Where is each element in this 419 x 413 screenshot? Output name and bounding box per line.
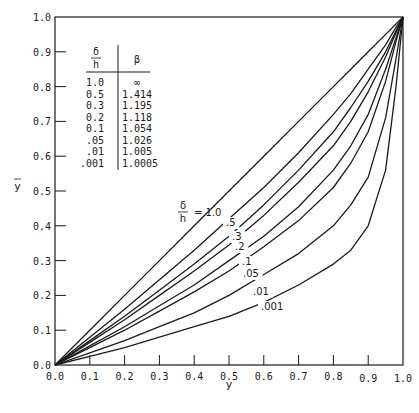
y-axis-ticks: 0.00.10.20.30.40.50.60.70.80.91.0: [33, 12, 66, 371]
x-tick-label: 0.8: [324, 371, 342, 382]
x-tick-label: 1.0: [394, 373, 412, 384]
curve-family: [55, 17, 403, 365]
table-cell-beta: 1.005: [122, 146, 152, 157]
y-tick-label: 1.0: [33, 12, 51, 23]
x-tick-label: 0.0: [46, 371, 64, 382]
table-header-h: h: [93, 59, 99, 70]
table-cell-delta: .05: [86, 135, 104, 146]
table-cell-delta: 0.2: [86, 112, 104, 123]
curve-label: .2: [235, 241, 245, 252]
x-tick-label: 0.3: [150, 371, 168, 382]
x-tick-label: 0.7: [290, 371, 308, 382]
svg-text:y: y: [14, 180, 21, 193]
table-header-beta: β: [134, 54, 140, 65]
curve-label: .001: [261, 301, 283, 312]
y-tick-label: 0.6: [33, 151, 51, 162]
table-cell-beta: 1.118: [122, 112, 152, 123]
x-tick-label: 0.9: [359, 373, 377, 384]
x-tick-label: 0.4: [185, 371, 203, 382]
y-tick-label: 0.5: [33, 186, 51, 197]
curve-label: .5: [226, 217, 236, 228]
table-cell-beta: 1.026: [122, 135, 152, 146]
table-cell-beta: ∞: [134, 77, 140, 88]
chart-canvas: 0.00.10.20.30.40.50.60.70.80.91.0 0.00.1…: [0, 0, 419, 413]
table-header-delta: δ: [93, 46, 99, 57]
y-tick-label: 0.4: [33, 221, 51, 232]
curve-label: .05: [243, 268, 259, 279]
curve-1p0: [55, 17, 403, 365]
table-cell-delta: 0.5: [86, 89, 104, 100]
x-tick-label: 0.2: [116, 371, 134, 382]
table-cell-beta: 1.414: [122, 89, 152, 100]
y-tick-label: 0.8: [33, 82, 51, 93]
curve-label: .01: [253, 286, 269, 297]
table-cell-beta: 1.195: [122, 100, 152, 111]
x-tick-label: 0.6: [255, 371, 273, 382]
table-cell-beta: 1.054: [122, 123, 152, 134]
table-cell-delta: 0.1: [86, 123, 104, 134]
svg-text:= 1.0: = 1.0: [194, 207, 221, 218]
x-tick-label: 0.1: [81, 371, 99, 382]
y-tick-label: 0.2: [33, 290, 51, 301]
table-cell-delta: 0.3: [86, 100, 104, 111]
table-cell-delta: .001: [80, 158, 104, 169]
curve-labels: .5.3.2.1.05.01.001: [223, 217, 287, 313]
svg-text:h: h: [180, 213, 186, 224]
x-axis-label: y: [226, 378, 233, 391]
y-axis-label: y: [14, 179, 21, 193]
table-cell-beta: 1.0005: [122, 158, 158, 169]
y-tick-label: 0.1: [33, 325, 51, 336]
y-tick-label: 0.9: [33, 47, 51, 58]
y-tick-label: 0.7: [33, 116, 51, 127]
table-cell-delta: 1.0: [86, 77, 104, 88]
svg-text:δ: δ: [180, 200, 186, 211]
y-tick-label: 0.3: [33, 256, 51, 267]
table-cell-delta: .01: [86, 146, 104, 157]
y-tick-label: 0.0: [33, 360, 51, 371]
curve-label: .1: [242, 256, 252, 267]
beta-table: δ h β 1.0∞0.51.4140.31.1950.21.1180.11.0…: [80, 45, 158, 170]
